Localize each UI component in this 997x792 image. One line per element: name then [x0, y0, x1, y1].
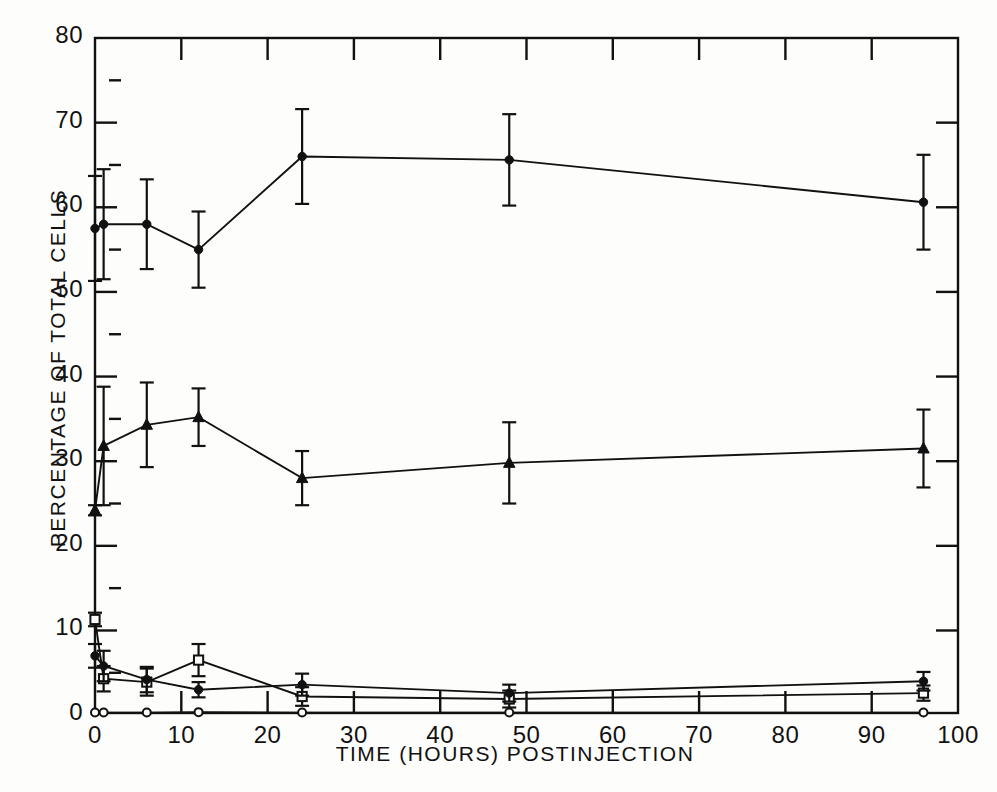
x-tick-label: 10: [151, 721, 211, 749]
x-tick-label: 60: [583, 721, 643, 749]
y-tick-label: 80: [25, 21, 83, 49]
data-point-open-circle: [919, 709, 927, 717]
x-tick-label: 0: [65, 721, 125, 749]
data-point-filled-circle: [91, 224, 99, 232]
series-series-1-filled-circle-high: [88, 109, 930, 288]
data-point-open-circle: [91, 709, 99, 717]
data-point-open-square: [90, 615, 99, 624]
data-point-open-circle: [100, 709, 108, 717]
y-tick-label: 40: [25, 360, 83, 388]
data-point-filled-circle: [99, 220, 107, 228]
x-tick-label: 30: [324, 721, 384, 749]
data-point-filled-circle: [99, 662, 107, 670]
x-tick-label: 50: [497, 721, 557, 749]
data-point-open-circle: [195, 708, 203, 716]
y-tick-label: 10: [25, 613, 83, 641]
y-tick-label: 60: [25, 190, 83, 218]
x-tick-label: 20: [238, 721, 298, 749]
data-point-filled-circle: [143, 675, 151, 683]
plot-frame: [95, 38, 958, 713]
data-point-filled-circle: [194, 686, 202, 694]
data-point-filled-triangle: [918, 442, 929, 453]
data-point-filled-triangle: [98, 440, 109, 451]
data-point-filled-circle: [298, 152, 306, 160]
data-point-open-circle: [298, 709, 306, 717]
data-point-filled-circle: [194, 245, 202, 253]
y-tick-label: 50: [25, 275, 83, 303]
x-tick-label: 90: [842, 721, 902, 749]
series-layer: [88, 109, 930, 716]
data-point-filled-circle: [919, 198, 927, 206]
data-point-filled-circle: [298, 680, 306, 688]
data-point-filled-circle: [505, 156, 513, 164]
y-tick-label: 30: [25, 444, 83, 472]
data-point-filled-circle: [505, 689, 513, 697]
data-point-open-square: [194, 656, 203, 665]
data-point-filled-circle: [919, 677, 927, 685]
y-tick-label: 20: [25, 529, 83, 557]
x-tick-label: 100: [928, 721, 988, 749]
x-tick-label: 70: [669, 721, 729, 749]
data-point-filled-circle: [91, 652, 99, 660]
axes-layer: [95, 38, 958, 713]
series-series-5-open-circle-baseline: [91, 708, 927, 716]
figure-container: PERCENTAGE OF TOTAL CELLS TIME (HOURS) P…: [0, 0, 997, 792]
series-series-4-filled-circle-low: [88, 644, 930, 702]
line-chart-svg: [0, 0, 997, 792]
data-point-open-circle: [505, 709, 513, 717]
x-tick-label: 80: [755, 721, 815, 749]
y-tick-label: 70: [25, 106, 83, 134]
series-series-2-filled-triangle: [88, 382, 930, 515]
data-point-open-circle: [143, 709, 151, 717]
x-tick-label: 40: [410, 721, 470, 749]
data-point-filled-triangle: [193, 411, 204, 422]
data-point-filled-circle: [143, 220, 151, 228]
